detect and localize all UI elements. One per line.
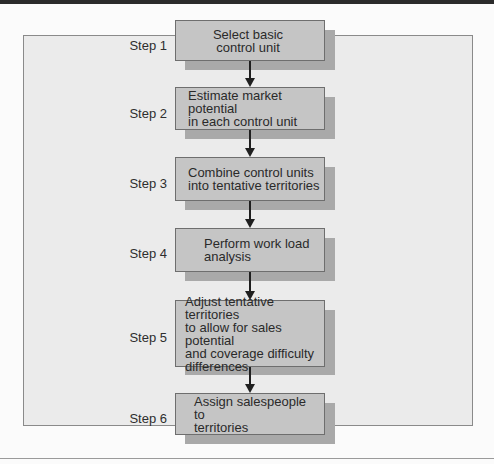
step-6-box: Assign salespeople to territories bbox=[175, 393, 325, 435]
arrow-3-4-line bbox=[249, 201, 251, 219]
step-1-box: Select basic control unit bbox=[175, 20, 325, 61]
step-5-box: Adjust tentative territories to allow fo… bbox=[175, 300, 325, 367]
step-2-label: Step 2 bbox=[87, 106, 167, 121]
step-1-text: Select basic control unit bbox=[176, 28, 324, 54]
top-border-bar bbox=[0, 0, 494, 4]
step-6-text-line-2: territories bbox=[194, 421, 320, 434]
arrow-2-3-line bbox=[249, 130, 251, 148]
step-5-text: Adjust tentative territories to allow fo… bbox=[176, 295, 324, 373]
bottom-rule bbox=[0, 458, 494, 459]
arrow-5-6-line bbox=[249, 367, 251, 384]
step-6-text: Assign salespeople to territories bbox=[176, 395, 324, 434]
step-1-text-line-2: control unit bbox=[176, 41, 320, 54]
step-1-label: Step 1 bbox=[87, 38, 167, 53]
step-2-text-line-1: Estimate market potential bbox=[188, 89, 320, 115]
arrow-down-icon bbox=[245, 148, 255, 157]
step-5-text-line-2: to allow for sales potential bbox=[185, 321, 320, 347]
step-3-box: Combine control units into tentative ter… bbox=[175, 157, 325, 201]
step-4-label: Step 4 bbox=[87, 246, 167, 261]
step-5-label: Step 5 bbox=[87, 330, 167, 345]
arrow-4-5-line bbox=[249, 272, 251, 291]
step-6-text-line-1: Assign salespeople to bbox=[194, 395, 320, 421]
arrow-down-icon bbox=[245, 384, 255, 393]
step-2-box: Estimate market potential in each contro… bbox=[175, 87, 325, 130]
step-6-label: Step 6 bbox=[87, 411, 167, 426]
step-3-text-line-2: into tentative territories bbox=[188, 179, 320, 192]
arrow-down-icon bbox=[245, 78, 255, 87]
arrow-1-2-line bbox=[249, 61, 251, 78]
step-3-text: Combine control units into tentative ter… bbox=[176, 166, 324, 192]
step-5-text-line-3: and coverage difficulty bbox=[185, 347, 320, 360]
step-5-text-line-4: differences bbox=[185, 360, 320, 373]
step-4-text: Perform work load analysis bbox=[176, 237, 313, 263]
step-3-label: Step 3 bbox=[87, 176, 167, 191]
arrow-down-icon bbox=[245, 219, 255, 228]
step-1-text-line-1: Select basic bbox=[176, 28, 320, 41]
step-5-text-line-1: Adjust tentative territories bbox=[185, 295, 320, 321]
step-4-box: Perform work load analysis bbox=[175, 228, 325, 272]
step-2-text: Estimate market potential in each contro… bbox=[176, 89, 324, 128]
step-2-text-line-2: in each control unit bbox=[188, 115, 320, 128]
step-4-text-line-2: analysis bbox=[204, 250, 309, 263]
